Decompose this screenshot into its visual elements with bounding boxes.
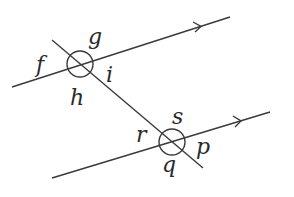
parallel-lines-diagram: f g h i s r p q [0,0,294,197]
angle-label-p: p [196,134,210,159]
angle-label-q: q [162,152,176,177]
lower-parallel-line [52,112,270,178]
angle-label-h: h [70,85,84,110]
angle-label-s: s [172,104,183,129]
angle-label-f: f [34,52,48,77]
angle-label-i: i [106,62,113,87]
angle-label-g: g [88,24,102,49]
upper-parallel-line [12,17,230,87]
angle-label-r: r [136,122,148,147]
